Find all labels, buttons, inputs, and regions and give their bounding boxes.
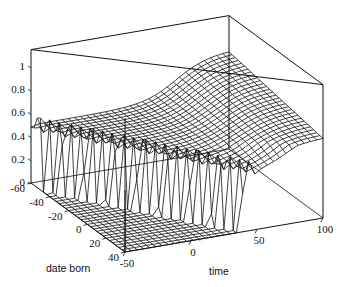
z-tick-label: 0.2 [11,153,25,165]
time-tick-label: 100 [317,223,334,235]
time-tick-label: 50 [254,234,266,246]
surface-mesh [31,52,323,252]
date-born-axis-title: date born [46,262,91,274]
z-tick-label: 0.4 [11,130,25,142]
date-born-tick-label: -20 [48,210,63,222]
z-tick-label: 0.6 [11,106,25,118]
surface-plot: 00.20.40.60.81 -60-40-2002040 -50050100 … [0,0,346,287]
date-born-tick-label: -40 [29,196,44,208]
z-axis-ticks: 00.20.40.60.81 [11,60,31,188]
time-tick-label: 0 [190,246,196,258]
date-born-tick-label: 40 [108,251,120,263]
date-born-tick-label: 20 [89,237,101,249]
z-tick-label: 0.8 [11,83,25,95]
time-axis-title: time [209,265,229,277]
date-born-tick-label: 0 [76,223,82,235]
z-tick-label: 1 [20,60,26,72]
date-born-tick-label: -60 [10,182,25,194]
time-tick-label: -50 [120,257,135,269]
